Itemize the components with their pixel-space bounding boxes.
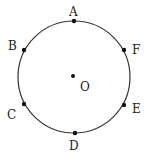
circle-diagram: A B F C E D O (0, 0, 152, 157)
label-f: F (132, 43, 140, 57)
label-d: D (69, 139, 79, 153)
label-a: A (68, 5, 78, 19)
center-point-o (71, 74, 75, 78)
point-c (22, 102, 26, 106)
label-b: B (8, 39, 17, 53)
label-e: E (132, 102, 141, 116)
label-o: O (80, 80, 90, 94)
point-d (73, 131, 77, 135)
point-e (122, 103, 126, 107)
point-f (122, 48, 126, 52)
point-a (72, 19, 76, 23)
point-b (22, 48, 26, 52)
label-c: C (7, 108, 16, 122)
